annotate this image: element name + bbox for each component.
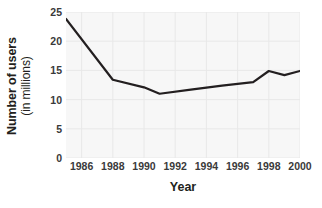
series-polyline <box>66 19 300 94</box>
y-tick-label: 15 <box>42 64 62 76</box>
y-axis-title-line2: (in millions) <box>20 11 33 161</box>
y-tick-label: 25 <box>42 6 62 18</box>
y-tick-label: 10 <box>42 94 62 106</box>
y-axis-title: Number of users (in millions) <box>6 11 40 161</box>
y-tick-label: 20 <box>42 35 62 47</box>
x-tick-label: 1990 <box>132 160 155 172</box>
x-tick-label: 1998 <box>257 160 280 172</box>
x-tick-label: 1992 <box>164 160 187 172</box>
x-tick-label: 1986 <box>70 160 93 172</box>
y-tick-label: 5 <box>42 123 62 135</box>
x-tick-label: 2000 <box>288 160 311 172</box>
x-tick-label: 1994 <box>195 160 218 172</box>
x-tick-label: 1988 <box>101 160 124 172</box>
x-axis-tick-labels: 19861988199019921994199619982000 <box>0 160 322 174</box>
x-axis-title: Year <box>66 180 300 194</box>
data-series-line <box>66 12 300 158</box>
y-axis-title-line1: Number of users <box>6 11 20 161</box>
plot-area <box>66 12 300 158</box>
y-axis-tick-labels: 0510152025 <box>42 0 62 208</box>
x-tick-label: 1996 <box>226 160 249 172</box>
line-chart-figure: Number of users (in millions) 0510152025… <box>0 0 322 208</box>
